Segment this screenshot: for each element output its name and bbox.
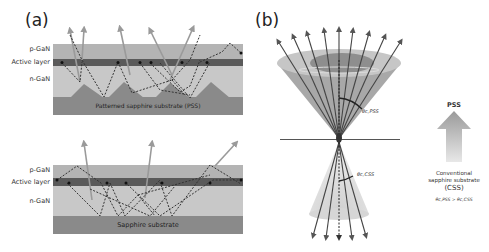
lower-angle-label: θc,CSS [357,171,374,177]
improvement-arrow [437,111,471,162]
apex-point [336,133,342,143]
legend-css-line3: (CSS) [414,184,489,192]
figure-canvas [0,0,489,252]
legend-pss: PSS [434,101,474,109]
pss-substrate-label: Patterned sapphire substrate (PSS) [53,102,243,109]
legend-css-line2: sapphire substrate [414,177,489,183]
css-substrate-label: Sapphire substrate [53,221,243,229]
upper-angle-label: θc,PSS [362,108,379,114]
legend-css-line1: Conventional [414,170,489,176]
legend-relation: θc,PSS > θc,CSS [414,197,489,202]
